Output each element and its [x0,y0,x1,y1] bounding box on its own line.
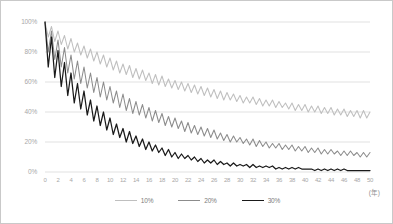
x-axis-tick: 44 [324,177,338,183]
x-axis-tick: 28 [220,177,234,183]
legend-item[interactable]: 20% [178,197,216,204]
series-lines [45,22,370,171]
y-axis-tick: 60% [7,78,37,85]
legend-swatch-icon [242,200,264,201]
gridlines [45,22,370,172]
x-axis-tick: 48 [350,177,364,183]
x-axis-tick: 42 [311,177,325,183]
legend-item[interactable]: 10% [115,197,153,204]
x-axis-tick: 16 [142,177,156,183]
x-axis-tick: 50 [363,177,377,183]
x-axis-tick: 14 [129,177,143,183]
chart-legend: 10%20%30% [1,197,393,204]
x-axis-tick: 18 [155,177,169,183]
x-axis-tick: 38 [285,177,299,183]
x-axis-tick: 12 [116,177,130,183]
x-axis-tick: 46 [337,177,351,183]
x-axis-tick: 34 [259,177,273,183]
x-axis-tick: 40 [298,177,312,183]
y-axis-tick: 80% [7,48,37,55]
x-axis-tick: 36 [272,177,286,183]
legend-label: 10% [141,197,153,204]
chart-figure: 0%20%40%60%80%100% 024681012141618202224… [0,0,393,224]
x-axis-tick: 6 [77,177,91,183]
x-axis-tick: 30 [233,177,247,183]
x-axis-tick: 0 [38,177,52,183]
x-axis-tick: 20 [168,177,182,183]
chart-canvas [1,1,393,224]
legend-item[interactable]: 30% [242,197,280,204]
series-line-10pct [45,22,370,118]
x-axis-tick: 8 [90,177,104,183]
x-axis-tick: 10 [103,177,117,183]
x-axis-tick: 32 [246,177,260,183]
x-axis-tick: 24 [194,177,208,183]
y-axis-tick: 20% [7,138,37,145]
y-axis-tick: 40% [7,108,37,115]
y-axis-tick: 100% [7,18,37,25]
legend-label: 20% [204,197,216,204]
series-line-30pct [45,22,370,171]
legend-swatch-icon [115,200,137,201]
legend-swatch-icon [178,200,200,201]
y-axis-tick: 0% [7,168,37,175]
x-axis-unit-label: (年) [369,187,380,197]
x-axis-tick: 26 [207,177,221,183]
legend-label: 30% [268,197,280,204]
x-axis-tick: 2 [51,177,65,183]
x-axis-tick: 22 [181,177,195,183]
x-axis-tick: 4 [64,177,78,183]
